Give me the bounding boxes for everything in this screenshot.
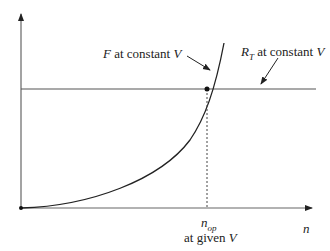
diagram-graphics xyxy=(0,0,330,251)
curve-pointer-arrow xyxy=(187,56,210,70)
intersection-point xyxy=(205,87,210,92)
origin-point xyxy=(19,206,23,210)
diagram: F at constant V RT at constant V nop at … xyxy=(0,0,330,251)
op-caption: at given V xyxy=(184,231,237,244)
line-pointer-arrow xyxy=(261,58,278,84)
line-label: RT at constant V xyxy=(241,45,324,62)
f-curve xyxy=(21,43,224,208)
x-axis-label: n xyxy=(303,222,310,235)
curve-label: F at constant V xyxy=(103,47,181,60)
